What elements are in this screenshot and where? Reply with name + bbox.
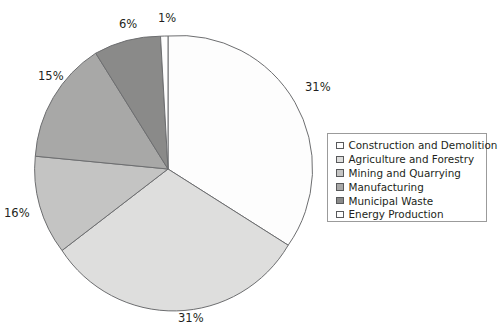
legend-item-agriculture-and-forestry[interactable]: Agriculture and Forestry — [336, 153, 486, 166]
legend-item-energy-production[interactable]: Energy Production — [336, 208, 486, 221]
legend-item-label: Mining and Quarrying — [349, 168, 461, 178]
legend-swatch-icon — [336, 156, 344, 164]
legend-swatch-icon — [336, 183, 344, 191]
slice-value-label-manufacturing: 15% — [38, 69, 64, 83]
slice-value-label-energy-production: 1% — [158, 11, 176, 25]
slice-value-label-mining-and-quarrying: 16% — [4, 206, 30, 220]
legend-item-manufacturing[interactable]: Manufacturing — [336, 180, 486, 193]
slice-value-label-construction-and-demolition: 31% — [305, 80, 331, 94]
legend-swatch-icon — [336, 211, 344, 219]
legend-swatch-icon — [336, 169, 344, 177]
slice-value-label-agriculture-and-forestry: 31% — [178, 311, 204, 325]
legend-item-label: Manufacturing — [349, 182, 424, 192]
legend-swatch-icon — [336, 197, 344, 205]
legend-item-label: Municipal Waste — [349, 196, 434, 206]
legend-swatch-icon — [336, 142, 344, 150]
legend-item-label: Agriculture and Forestry — [349, 154, 475, 164]
pie-slices — [35, 35, 313, 310]
legend-item-label: Construction and Demolition — [349, 140, 498, 150]
legend-item-construction-and-demolition[interactable]: Construction and Demolition — [336, 139, 486, 152]
pie-chart-figure: 31% 31% 16% 15% 6% 1% Construction and D… — [0, 0, 503, 336]
legend-item-municipal-waste[interactable]: Municipal Waste — [336, 194, 486, 207]
legend-item-mining-and-quarrying[interactable]: Mining and Quarrying — [336, 167, 486, 180]
slice-value-label-municipal-waste: 6% — [119, 17, 137, 31]
chart-legend: Construction and Demolition Agriculture … — [327, 133, 487, 222]
legend-item-label: Energy Production — [349, 209, 444, 219]
